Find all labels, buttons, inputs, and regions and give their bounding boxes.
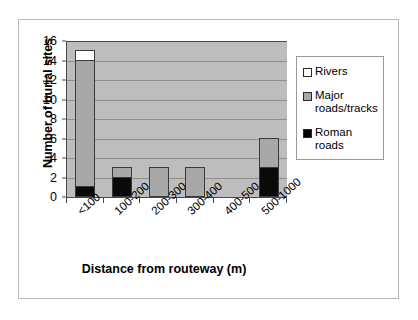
x-axis-tick-mark	[66, 198, 67, 203]
bar-segment[interactable]	[75, 60, 95, 188]
chart-frame: Number of burial sites 0246810121416 <10…	[18, 19, 399, 299]
y-axis-tick-label: 2	[50, 171, 57, 184]
y-axis-tick-label: 6	[50, 132, 57, 145]
legend-item[interactable]: Major roads/tracks	[303, 89, 378, 115]
bar-segment[interactable]	[259, 138, 279, 168]
x-axis-category-labels: <100100-200200-300300-400400-500500-1000	[66, 204, 287, 262]
bar-segment[interactable]	[75, 50, 95, 61]
bar-series-container	[67, 41, 287, 197]
bar-group[interactable]	[185, 41, 205, 197]
legend-label: Major roads/tracks	[315, 89, 378, 115]
y-axis-tick-label: 12	[43, 74, 57, 87]
x-axis-tick-mark	[103, 198, 104, 203]
y-axis-tick-label: 4	[50, 152, 57, 165]
y-axis-tick-label: 16	[43, 35, 57, 48]
y-axis-tick-label: 14	[43, 54, 57, 67]
bar-group[interactable]	[75, 41, 95, 197]
legend-item[interactable]: Roman roads	[303, 126, 378, 152]
legend-swatch-icon	[303, 68, 312, 77]
y-axis-tick-container: 0246810121416	[19, 20, 66, 177]
bar-group[interactable]	[259, 41, 279, 197]
y-axis-tick-label: 0	[50, 191, 57, 204]
bar-group[interactable]	[149, 41, 169, 197]
y-axis-tick-label: 10	[43, 93, 57, 106]
bar-group[interactable]	[222, 41, 242, 197]
legend-label: Roman roads	[315, 126, 378, 152]
bar-segment[interactable]	[112, 167, 132, 178]
legend-swatch-icon	[303, 92, 312, 101]
legend-item[interactable]: Rivers	[303, 65, 378, 78]
bar-group[interactable]	[112, 41, 132, 197]
legend-swatch-icon	[303, 129, 312, 138]
x-axis-title: Distance from routeway (m)	[19, 262, 309, 276]
y-axis-tick-label: 8	[50, 113, 57, 126]
plot-area	[66, 41, 287, 198]
legend-label: Rivers	[315, 65, 348, 78]
legend: RiversMajor roads/tracksRoman roads	[296, 56, 384, 160]
